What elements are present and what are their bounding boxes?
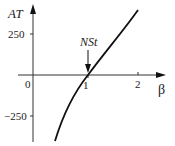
x-tick-label-2: 2: [135, 78, 141, 90]
y-axis-label: AT: [7, 6, 23, 21]
y-tick-label-m250: −250: [4, 110, 27, 122]
y-tick-label-250: 250: [8, 28, 25, 40]
y-axis-arrow-icon: [30, 4, 36, 14]
chart: AT 250 −250 0 1 2 β NSt: [0, 0, 175, 146]
nst-annotation: NSt: [79, 35, 98, 49]
x-axis-label: β: [158, 82, 165, 97]
x-axis-arrow-icon: [156, 72, 166, 78]
x-tick-label-1: 1: [83, 79, 89, 91]
x-tick-label-0: 0: [25, 78, 31, 90]
